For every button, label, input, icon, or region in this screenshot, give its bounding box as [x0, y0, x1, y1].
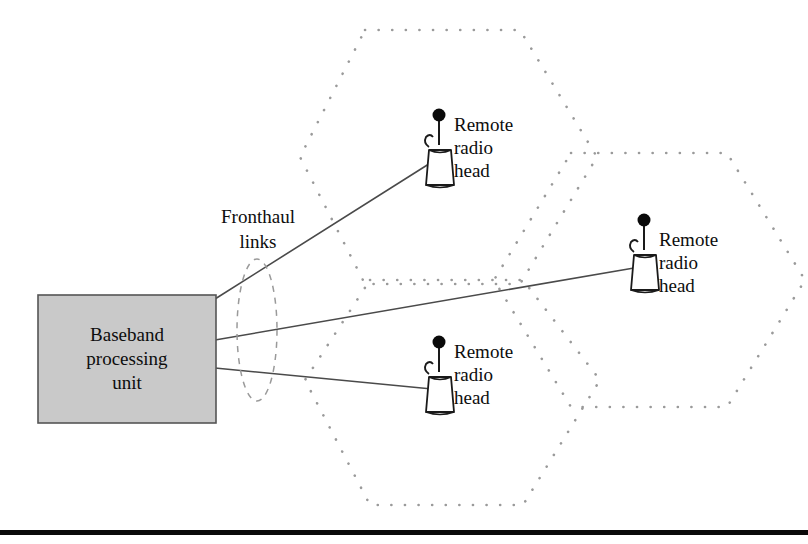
network-architecture-diagram: Baseband processing unit Fronthaul links — [0, 0, 808, 544]
bottom-horizontal-rule — [0, 530, 808, 535]
bottom-rule-layer — [0, 0, 808, 544]
